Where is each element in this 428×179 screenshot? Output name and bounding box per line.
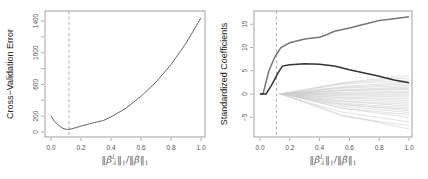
- lasso-figure: 0.00.20.40.60.81.0 020060010001400 Cross…: [0, 0, 428, 179]
- x-tick-label: 0.2: [76, 144, 85, 151]
- y-tick-label: 5: [241, 69, 248, 73]
- x-tick-label: 0.4: [106, 144, 115, 151]
- x-tick-label: 0.8: [375, 144, 384, 151]
- y-tick-label: 0: [32, 130, 39, 134]
- x-tick-label: 0.0: [255, 144, 264, 151]
- x-tick-label: 1.0: [404, 144, 413, 151]
- y-tick-label: −5: [241, 113, 248, 121]
- x-tick-label: 0.0: [46, 144, 55, 151]
- coefficient-path: [281, 94, 409, 126]
- x-tick-label: 0.6: [136, 144, 145, 151]
- cv-error-curve: [51, 18, 201, 130]
- y-tick-label: 600: [32, 79, 39, 90]
- y-axis: −5051015: [241, 20, 253, 121]
- x-axis-title: ‖β̂Lλ‖1/‖β̂‖1: [101, 153, 148, 166]
- x-tick-label: 0.4: [315, 144, 324, 151]
- x-tick-label: 0.8: [166, 144, 175, 151]
- x-axis-title: ‖β̂Lλ‖1/‖β̂‖1: [309, 153, 356, 166]
- coefficient-path-top: [260, 17, 409, 94]
- y-axis-title: Cross−Validation Error: [5, 29, 15, 119]
- y-axis-title: Standardized Coefficients: [219, 22, 229, 125]
- y-tick-label: 1000: [32, 45, 39, 60]
- y-tick-label: 15: [241, 20, 248, 28]
- y-tick-label: 0: [241, 92, 248, 96]
- y-axis: 020060010001400: [32, 13, 44, 133]
- coefficient-path: [282, 94, 409, 129]
- y-tick-label: 200: [32, 110, 39, 121]
- x-axis: 0.00.20.40.60.81.0: [46, 138, 205, 151]
- x-tick-label: 0.2: [285, 144, 294, 151]
- x-axis: 0.00.20.40.60.81.0: [255, 138, 413, 151]
- x-tick-label: 0.6: [345, 144, 354, 151]
- other-coefficient-paths: [279, 75, 409, 128]
- coefficient-path-plot: 0.00.20.40.60.81.0 −5051015 Standardized…: [219, 11, 414, 166]
- cv-error-plot: 0.00.20.40.60.81.0 020060010001400 Cross…: [5, 11, 206, 166]
- x-tick-label: 1.0: [196, 144, 205, 151]
- y-tick-label: 1400: [32, 13, 39, 28]
- y-tick-label: 10: [241, 44, 248, 52]
